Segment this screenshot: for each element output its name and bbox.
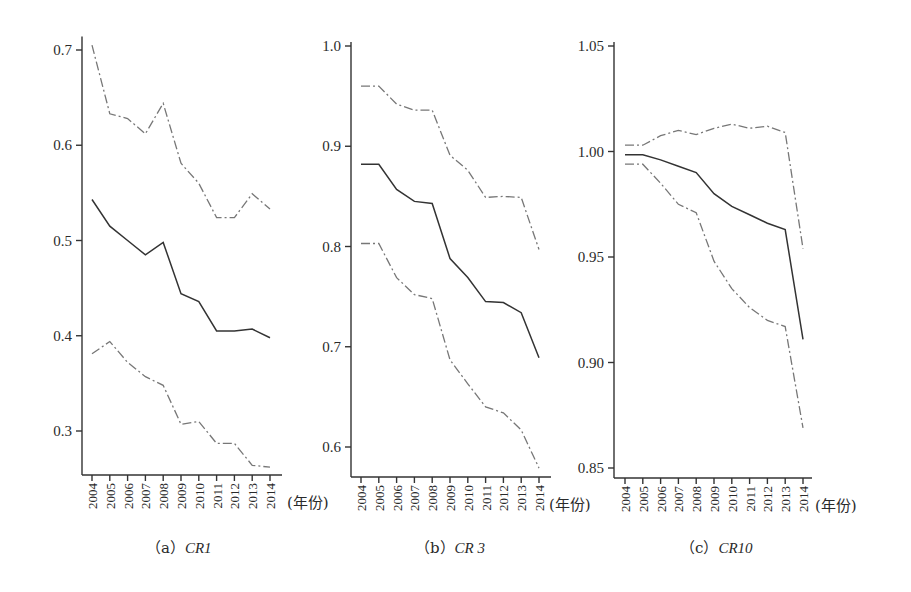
y-tick-label: 0.85	[578, 460, 604, 476]
y-tick-label: 0.3	[53, 423, 72, 439]
x-unit-label: (年份)	[549, 496, 591, 514]
x-tick-label: 2007	[407, 485, 422, 512]
x-tick-label: 2011	[743, 486, 758, 512]
x-tick-label: 2012	[227, 483, 242, 509]
x-tick-label: 2005	[103, 483, 118, 509]
y-tick-label: 0.8	[322, 239, 341, 255]
y-tick-label: 1.0	[322, 38, 341, 54]
panel-c: 0.850.900.951.001.0520042005200620072008…	[578, 38, 857, 557]
figure: 0.30.40.50.60.72004200520062007200820092…	[0, 0, 911, 592]
y-tick-label: 0.7	[322, 339, 341, 355]
x-tick-label: 2008	[689, 486, 704, 512]
series-lower-line	[361, 244, 539, 469]
x-tick-label: 2014	[796, 486, 811, 513]
y-tick-label: 0.9	[322, 138, 341, 154]
panel-b: 0.60.70.80.91.02004200520062007200820092…	[322, 38, 590, 557]
x-tick-label: 2011	[210, 483, 225, 509]
x-tick-label: 2008	[156, 483, 171, 509]
x-tick-label: 2009	[707, 486, 722, 512]
series-lower-line	[92, 342, 270, 468]
x-tick-label: 2006	[654, 486, 669, 513]
x-tick-label: 2007	[671, 486, 686, 513]
panel-caption: （a）CR1	[146, 539, 212, 557]
series-upper-line	[361, 86, 539, 249]
caption-metric: CR1	[185, 540, 212, 556]
x-tick-label: 2006	[121, 483, 136, 510]
y-tick-label: 0.5	[53, 233, 72, 249]
y-tick-label: 1.05	[578, 38, 604, 54]
x-tick-label: 2004	[618, 486, 633, 513]
caption-metric: CR10	[718, 540, 753, 556]
y-tick-label: 0.4	[53, 328, 72, 344]
x-tick-label: 2004	[85, 483, 100, 510]
caption-metric: CR 3	[455, 540, 485, 556]
y-tick-label: 0.90	[578, 355, 604, 371]
panel-a: 0.30.40.50.60.72004200520062007200820092…	[53, 36, 328, 557]
y-tick-label: 0.6	[53, 137, 72, 153]
x-tick-label: 2009	[443, 485, 458, 511]
x-tick-label: 2010	[461, 485, 476, 511]
series-estimate-line	[625, 155, 803, 340]
caption-prefix: （a）	[146, 539, 185, 557]
series-upper-line	[92, 45, 270, 217]
x-tick-label: 2008	[425, 485, 440, 511]
series-estimate-line	[92, 200, 270, 338]
x-tick-label: 2014	[532, 485, 547, 512]
panel-caption: （b）CR 3	[415, 539, 485, 557]
caption-prefix: （b）	[415, 539, 455, 557]
x-tick-label: 2010	[192, 483, 207, 509]
x-tick-label: 2007	[138, 483, 153, 510]
panel-caption: （c）CR10	[680, 539, 753, 557]
x-tick-label: 2013	[514, 485, 529, 511]
y-tick-label: 1.00	[578, 144, 604, 160]
x-tick-label: 2006	[390, 485, 405, 512]
x-tick-label: 2009	[174, 483, 189, 509]
y-tick-label: 0.6	[322, 439, 341, 455]
caption-prefix: （c）	[680, 539, 718, 557]
x-tick-label: 2005	[372, 485, 387, 511]
x-tick-label: 2011	[479, 485, 494, 511]
x-unit-label: (年份)	[815, 497, 857, 515]
y-tick-label: 0.95	[578, 249, 604, 265]
x-tick-label: 2013	[245, 483, 260, 509]
x-tick-label: 2010	[725, 486, 740, 512]
x-tick-label: 2014	[263, 483, 278, 510]
x-unit-label: (年份)	[287, 494, 329, 512]
x-tick-label: 2012	[496, 485, 511, 511]
y-tick-label: 0.7	[53, 42, 72, 58]
x-tick-label: 2004	[354, 485, 369, 512]
x-tick-label: 2013	[778, 486, 793, 512]
x-tick-label: 2005	[636, 486, 651, 512]
x-tick-label: 2012	[760, 486, 775, 512]
series-upper-line	[625, 124, 803, 249]
series-lower-line	[625, 164, 803, 428]
